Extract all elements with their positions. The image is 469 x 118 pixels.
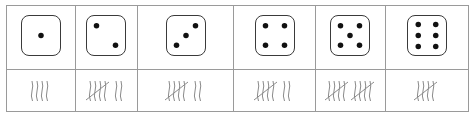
die-face-3-icon [166, 15, 206, 56]
tally-marks-icon [414, 78, 439, 104]
die-cell-6 [385, 6, 468, 70]
die-face-6-icon [407, 15, 447, 56]
die-cell-3 [138, 6, 234, 70]
die-face-4-icon [255, 15, 295, 56]
tally-cell-4 [234, 70, 315, 112]
die-face-5-icon [330, 15, 370, 56]
die-cell-2 [75, 6, 138, 70]
tally-marks-icon [254, 78, 295, 104]
tally-cell-2 [75, 70, 138, 112]
tally-marks-icon [165, 78, 206, 104]
dice-row [7, 6, 469, 70]
tally-cell-1 [7, 70, 76, 112]
tally-cell-3 [138, 70, 234, 112]
tally-row [7, 70, 469, 112]
tally-marks-icon [86, 78, 127, 104]
die-cell-4 [234, 6, 315, 70]
tally-marks-icon [28, 78, 53, 104]
die-cell-5 [315, 6, 385, 70]
dice-tally-table [6, 5, 469, 112]
die-face-1-icon [21, 15, 61, 56]
die-face-2-icon [86, 15, 126, 56]
tally-marks-icon [325, 78, 376, 104]
die-cell-1 [7, 6, 76, 70]
tally-cell-5 [315, 70, 385, 112]
tally-cell-6 [385, 70, 468, 112]
